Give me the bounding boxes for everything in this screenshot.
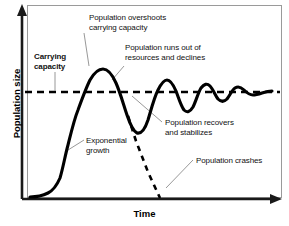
annotation-overshoot: Population overshoots carrying capacity [89,13,166,32]
annotation-carrying-capacity: Carrying capacity [34,52,66,71]
annotation-decline: Population runs out of resources and dec… [125,43,205,62]
annotation-population-crashes: Population crashes [196,156,262,166]
annotation-recover: Population recovers and stabilizes [165,118,234,137]
plot-canvas [0,0,289,226]
annotation-exponential-growth: Exponential growth [86,136,127,155]
y-axis-label: Population size [11,61,22,147]
x-axis-label: Time [0,208,289,219]
population-growth-diagram: Carrying capacity Population overshoots … [0,0,289,226]
